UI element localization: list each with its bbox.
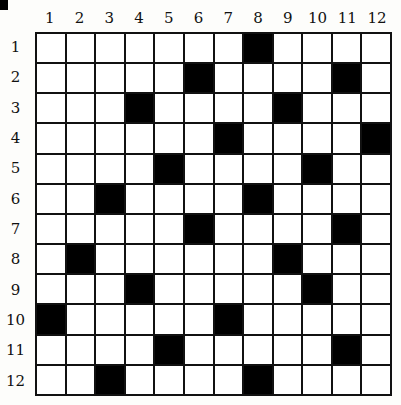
white-cell[interactable] [185,94,213,122]
white-cell[interactable] [362,366,390,394]
white-cell[interactable] [126,215,154,243]
white-cell[interactable] [303,366,331,394]
white-cell[interactable] [333,94,361,122]
white-cell[interactable] [303,336,331,364]
white-cell[interactable] [185,185,213,213]
white-cell[interactable] [274,155,302,183]
white-cell[interactable] [96,275,124,303]
white-cell[interactable] [67,34,95,62]
white-cell[interactable] [67,275,95,303]
white-cell[interactable] [185,155,213,183]
white-cell[interactable] [155,94,183,122]
white-cell[interactable] [37,124,65,152]
white-cell[interactable] [126,366,154,394]
white-cell[interactable] [333,124,361,152]
white-cell[interactable] [126,124,154,152]
white-cell[interactable] [215,155,243,183]
white-cell[interactable] [67,94,95,122]
white-cell[interactable] [185,305,213,333]
white-cell[interactable] [303,64,331,92]
white-cell[interactable] [37,366,65,394]
white-cell[interactable] [274,336,302,364]
white-cell[interactable] [274,34,302,62]
white-cell[interactable] [244,94,272,122]
white-cell[interactable] [274,366,302,394]
white-cell[interactable] [185,336,213,364]
white-cell[interactable] [215,34,243,62]
white-cell[interactable] [303,215,331,243]
white-cell[interactable] [155,275,183,303]
white-cell[interactable] [67,124,95,152]
white-cell[interactable] [155,34,183,62]
white-cell[interactable] [333,245,361,273]
white-cell[interactable] [303,305,331,333]
white-cell[interactable] [67,155,95,183]
white-cell[interactable] [126,34,154,62]
white-cell[interactable] [362,185,390,213]
white-cell[interactable] [362,336,390,364]
white-cell[interactable] [215,336,243,364]
white-cell[interactable] [155,64,183,92]
white-cell[interactable] [362,275,390,303]
white-cell[interactable] [67,305,95,333]
white-cell[interactable] [303,124,331,152]
white-cell[interactable] [155,366,183,394]
white-cell[interactable] [362,94,390,122]
white-cell[interactable] [274,275,302,303]
white-cell[interactable] [274,185,302,213]
white-cell[interactable] [303,94,331,122]
white-cell[interactable] [96,155,124,183]
white-cell[interactable] [303,245,331,273]
white-cell[interactable] [303,34,331,62]
white-cell[interactable] [244,245,272,273]
white-cell[interactable] [362,245,390,273]
white-cell[interactable] [96,305,124,333]
white-cell[interactable] [96,94,124,122]
white-cell[interactable] [37,275,65,303]
white-cell[interactable] [185,275,213,303]
white-cell[interactable] [244,155,272,183]
white-cell[interactable] [274,64,302,92]
white-cell[interactable] [244,124,272,152]
white-cell[interactable] [126,155,154,183]
white-cell[interactable] [215,185,243,213]
white-cell[interactable] [333,366,361,394]
white-cell[interactable] [155,305,183,333]
white-cell[interactable] [67,336,95,364]
white-cell[interactable] [244,215,272,243]
white-cell[interactable] [126,64,154,92]
white-cell[interactable] [67,64,95,92]
white-cell[interactable] [37,34,65,62]
white-cell[interactable] [215,215,243,243]
white-cell[interactable] [155,124,183,152]
white-cell[interactable] [37,185,65,213]
white-cell[interactable] [96,34,124,62]
white-cell[interactable] [362,155,390,183]
white-cell[interactable] [37,94,65,122]
white-cell[interactable] [126,245,154,273]
white-cell[interactable] [185,366,213,394]
white-cell[interactable] [215,64,243,92]
white-cell[interactable] [215,94,243,122]
white-cell[interactable] [37,336,65,364]
white-cell[interactable] [37,155,65,183]
white-cell[interactable] [274,124,302,152]
white-cell[interactable] [362,64,390,92]
white-cell[interactable] [185,34,213,62]
white-cell[interactable] [155,215,183,243]
white-cell[interactable] [67,215,95,243]
white-cell[interactable] [155,185,183,213]
white-cell[interactable] [244,336,272,364]
white-cell[interactable] [37,64,65,92]
white-cell[interactable] [333,185,361,213]
white-cell[interactable] [333,305,361,333]
white-cell[interactable] [67,185,95,213]
white-cell[interactable] [126,305,154,333]
white-cell[interactable] [215,275,243,303]
white-cell[interactable] [274,215,302,243]
white-cell[interactable] [126,185,154,213]
white-cell[interactable] [244,275,272,303]
white-cell[interactable] [274,305,302,333]
white-cell[interactable] [333,275,361,303]
white-cell[interactable] [185,124,213,152]
